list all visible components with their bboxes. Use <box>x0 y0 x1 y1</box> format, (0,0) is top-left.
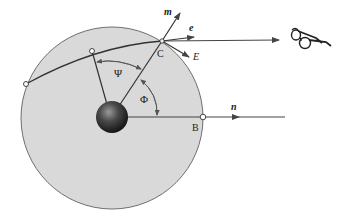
line-of-sight <box>162 40 279 41</box>
label-C: C <box>157 48 164 59</box>
point-left <box>24 82 29 87</box>
vector-m <box>162 13 180 41</box>
eyeglasses-icon <box>292 29 332 49</box>
label-e: e <box>189 22 194 33</box>
label-n: n <box>231 101 237 112</box>
label-phi: Φ <box>140 93 148 105</box>
point-B <box>200 114 206 120</box>
label-B: B <box>192 122 199 133</box>
label-psi: Ψ <box>114 67 123 79</box>
point-C <box>160 39 164 43</box>
point-mid <box>90 49 95 54</box>
earth-sphere <box>96 101 128 133</box>
label-m: m <box>164 6 172 17</box>
label-E: E <box>192 51 199 62</box>
